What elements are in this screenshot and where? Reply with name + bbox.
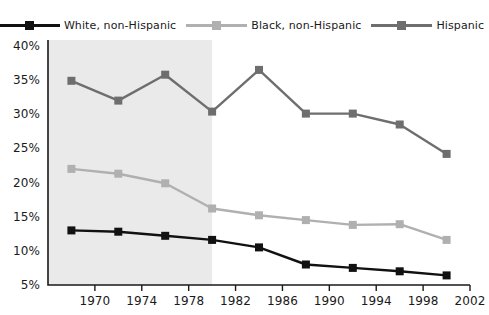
data-point-marker[interactable]: [161, 71, 169, 79]
data-point-marker[interactable]: [349, 264, 357, 272]
data-point-marker[interactable]: [302, 110, 310, 118]
data-point-marker[interactable]: [443, 150, 451, 158]
data-point-marker[interactable]: [255, 66, 263, 74]
x-tick-label-6: 1994: [354, 294, 398, 308]
y-tick-label-5: 30%: [6, 107, 40, 121]
data-point-marker[interactable]: [67, 77, 75, 85]
data-point-marker[interactable]: [161, 179, 169, 187]
y-tick-label-6: 35%: [6, 73, 40, 87]
data-point-marker[interactable]: [396, 121, 404, 129]
x-tick-label-1: 1974: [120, 294, 164, 308]
data-point-marker[interactable]: [208, 108, 216, 116]
x-tick-label-4: 1986: [260, 294, 304, 308]
data-point-marker[interactable]: [208, 236, 216, 244]
data-point-marker[interactable]: [67, 165, 75, 173]
data-point-marker[interactable]: [396, 267, 404, 275]
x-tick-label-2: 1978: [167, 294, 211, 308]
y-tick-label-4: 25%: [6, 141, 40, 155]
y-tick-label-7: 40%: [6, 39, 40, 53]
x-tick-label-5: 1990: [307, 294, 351, 308]
x-tick-label-3: 1982: [214, 294, 258, 308]
y-tick-label-0: 5%: [6, 278, 40, 292]
data-point-marker[interactable]: [349, 221, 357, 229]
shaded-region: [48, 40, 212, 285]
y-tick-label-2: 15%: [6, 210, 40, 224]
y-tick-label-1: 10%: [6, 244, 40, 258]
x-tick-label-8: 2002: [448, 294, 489, 308]
data-point-marker[interactable]: [208, 205, 216, 213]
data-point-marker[interactable]: [114, 170, 122, 178]
data-point-marker[interactable]: [302, 261, 310, 269]
data-point-marker[interactable]: [161, 232, 169, 240]
data-point-marker[interactable]: [443, 271, 451, 279]
data-point-marker[interactable]: [114, 228, 122, 236]
data-point-marker[interactable]: [255, 211, 263, 219]
data-point-marker[interactable]: [114, 97, 122, 105]
x-tick-label-7: 1998: [401, 294, 445, 308]
data-point-marker[interactable]: [443, 236, 451, 244]
y-tick-label-3: 20%: [6, 176, 40, 190]
x-tick-label-0: 1970: [73, 294, 117, 308]
data-point-marker[interactable]: [396, 220, 404, 228]
data-point-marker[interactable]: [255, 243, 263, 251]
data-point-marker[interactable]: [349, 110, 357, 118]
data-point-marker[interactable]: [67, 226, 75, 234]
data-point-marker[interactable]: [302, 216, 310, 224]
